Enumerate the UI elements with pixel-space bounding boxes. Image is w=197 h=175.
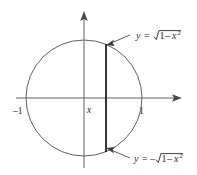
upper-equation-label: y = 1 – x 2 [135, 29, 181, 41]
upper-eq-minus: – [164, 30, 171, 41]
lower-leader-arrow-icon [106, 147, 115, 153]
lower-eq-equals: = [142, 153, 148, 164]
axis-tick-label-minus-one: –1 [12, 106, 23, 116]
lower-eq-one: 1 [161, 153, 166, 164]
upper-eq-one: 1 [159, 30, 164, 41]
upper-leader-arrow-icon [106, 40, 115, 46]
upper-leader-line [111, 35, 130, 43]
lower-leader-line [111, 150, 130, 158]
lower-eq-y: y [133, 153, 139, 164]
lower-equation-label: y = – 1 – x 2 [133, 152, 183, 164]
lower-eq-exponent: 2 [179, 152, 182, 159]
lower-eq-minus: – [166, 153, 173, 164]
lower-eq-sign: – [149, 153, 156, 164]
upper-eq-y: y [135, 30, 141, 41]
x-variable-marker-label: x [86, 105, 92, 115]
upper-eq-x: x [171, 30, 177, 41]
upper-eq-equals: = [144, 30, 150, 41]
axis-tick-label-one: 1 [139, 106, 144, 116]
math-figure-unit-circle: y = 1 – x 2 y = – 1 – x 2 –1 1 x [0, 0, 197, 175]
upper-eq-exponent: 2 [177, 29, 180, 36]
lower-eq-x: x [173, 153, 179, 164]
